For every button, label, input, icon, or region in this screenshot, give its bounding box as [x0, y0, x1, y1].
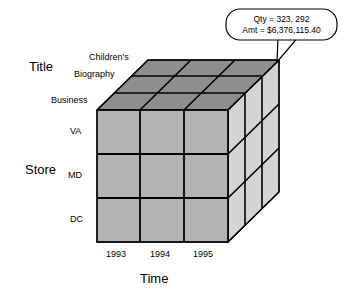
title-member-business: Business [51, 95, 88, 105]
time-member-1993: 1993 [106, 249, 126, 259]
callout-bubble[interactable]: Qty = 323, 292 Amt = $6,376,115.40 [226, 9, 337, 62]
axis-title-time: Time [140, 271, 168, 286]
callout-amt-text: Amt = $6,376,115.40 [242, 25, 321, 35]
axis-title-title: Title [29, 59, 53, 74]
cube-graphic: Qty = 323, 292 Amt = $6,376,115.40 [0, 0, 344, 294]
time-member-1994: 1994 [150, 249, 170, 259]
callout-qty-text: Qty = 323, 292 [254, 14, 310, 24]
title-member-biography: Biography [74, 69, 115, 79]
store-member-md: MD [68, 170, 82, 180]
store-member-va: VA [70, 126, 81, 136]
store-member-dc: DC [70, 214, 83, 224]
title-member-childrens: Children's [89, 52, 129, 62]
time-member-1995: 1995 [193, 249, 213, 259]
cube-front-face [97, 110, 228, 242]
data-cube-figure: Qty = 323, 292 Amt = $6,376,115.40 Title… [0, 0, 344, 294]
axis-title-store: Store [25, 162, 56, 177]
